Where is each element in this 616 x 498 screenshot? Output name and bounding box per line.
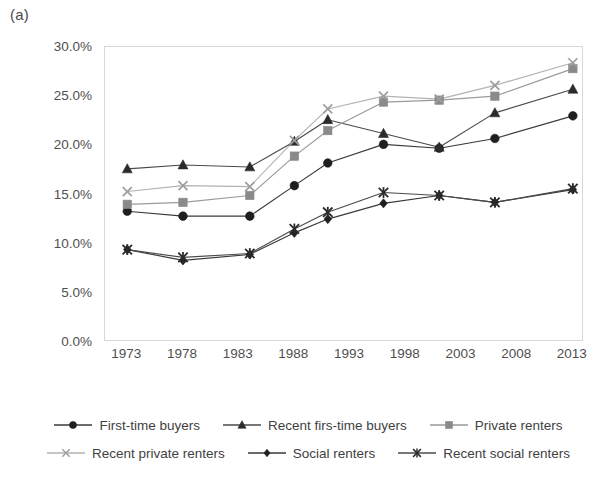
y-axis-tick-label: 10.0% [54,235,92,250]
data-point [568,84,578,93]
data-point [290,181,299,190]
data-point [290,152,298,160]
plot-area [104,46,583,341]
data-point [569,112,578,121]
legend-item[interactable]: Recent social renters [397,446,570,461]
data-point [491,134,500,143]
x-axis-tick-label: 1993 [334,346,364,361]
panel-label: (a) [10,6,29,23]
legend-item[interactable]: Private renters [429,418,563,433]
legend-item[interactable]: First-time buyers [53,418,200,433]
series-line-1 [127,89,573,169]
x-axis-tick-label: 1973 [111,346,141,361]
y-axis-tick-label: 30.0% [54,39,92,54]
y-axis-tick-label: 0.0% [61,334,92,349]
legend-label: First-time buyers [99,418,200,433]
x-axis-tick-label: 2013 [557,346,587,361]
x-axis-tick-label: 2003 [445,346,475,361]
data-point [179,198,187,206]
x-axis: 197319781983198819931998200320082013 [104,346,583,370]
data-point [246,191,254,199]
legend-item[interactable]: Social renters [247,446,376,461]
legend-label: Recent social renters [443,446,570,461]
data-point [323,207,332,218]
x-axis-tick-label: 1988 [278,346,308,361]
data-point [323,159,332,168]
data-point [323,104,332,113]
legend-label: Recent private renters [92,446,225,461]
x-axis-tick-label: 1978 [167,346,197,361]
data-point [323,115,333,124]
legend-item[interactable]: Recent firs-time buyers [222,418,407,433]
legend-marker-icon [429,418,469,432]
data-point [178,160,188,169]
legend-label: Recent firs-time buyers [268,418,407,433]
data-point [380,199,388,208]
legend-row: Recent private rentersSocial rentersRece… [0,440,616,466]
data-point [290,224,299,235]
legend-item[interactable]: Recent private renters [46,446,225,461]
series-line-2 [127,69,573,205]
data-point [379,140,388,149]
data-point [490,81,499,90]
legend-label: Private renters [475,418,563,433]
data-point [123,200,131,208]
legend-label: Social renters [293,446,376,461]
x-axis-tick-label: 1998 [390,346,420,361]
y-axis-tick-label: 15.0% [54,186,92,201]
data-point [246,212,255,221]
legend-row: First-time buyersRecent firs-time buyers… [0,412,616,438]
series-line-5 [127,189,573,258]
chart-legend: First-time buyersRecent firs-time buyers… [0,408,616,466]
chart-series-svg [105,47,584,342]
series-line-3 [127,63,573,192]
legend-marker-icon [53,418,93,432]
data-point [324,126,332,134]
data-point [179,212,188,221]
legend-marker-icon [222,418,262,432]
x-axis-tick-label: 1983 [223,346,253,361]
figure-panel-a: (a) 0.0%5.0%10.0%15.0%20.0%25.0%30.0% 19… [0,0,616,498]
x-axis-tick-label: 2008 [501,346,531,361]
y-axis-tick-label: 5.0% [61,284,92,299]
data-point [491,92,499,100]
y-axis: 0.0%5.0%10.0%15.0%20.0%25.0%30.0% [0,46,100,341]
legend-marker-icon [397,446,437,460]
y-axis-tick-label: 20.0% [54,137,92,152]
legend-marker-icon [247,446,287,460]
y-axis-tick-label: 25.0% [54,88,92,103]
legend-marker-icon [46,446,86,460]
